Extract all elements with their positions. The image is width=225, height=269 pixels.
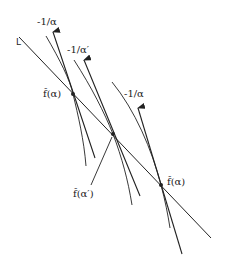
curve-3 [112,82,170,228]
line-L [19,37,211,238]
diagram-canvas: L -1/α -1/α′ -1/α f̂(α) f̂(α′) f̂(α) [0,0,225,269]
curve-2 [74,60,132,205]
point-3-dot [159,183,163,187]
point-label-3: f̂(α) [167,177,185,187]
pointer-line [91,137,112,185]
point-1-dot [71,92,75,96]
diagram-svg [0,0,225,269]
point-2-dot [111,132,115,136]
point-label-2: f̂(α′) [73,189,94,199]
point-label-1: f̂(α) [43,89,61,99]
slope-label-1: -1/α [37,17,57,27]
line-L-label: L [16,38,21,47]
slope-label-2: -1/α′ [67,45,89,55]
slope-label-3: -1/α [124,89,144,99]
tangent-2 [84,60,140,196]
